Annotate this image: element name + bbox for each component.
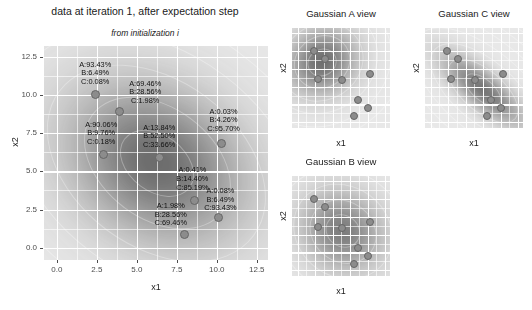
probability-line: C:1.98%: [110, 97, 180, 106]
scatter-point[interactable]: [314, 75, 322, 83]
main-yaxis-title: x2: [10, 112, 20, 172]
facet-a-xaxis-title: x1: [292, 138, 390, 148]
scatter-point[interactable]: [321, 203, 329, 211]
y-tick-label: 0.0: [4, 243, 37, 252]
scatter-point[interactable]: [354, 244, 362, 252]
facet-c-yaxis-title: x2: [411, 48, 421, 88]
y-tick-label: 2.5: [4, 205, 37, 214]
x-tick-label: 12.5: [239, 265, 275, 274]
x-tick-mark: [97, 260, 98, 263]
figure-root: data at iteration 1, after expectation s…: [0, 0, 532, 310]
y-tick-mark: [40, 248, 43, 249]
scatter-point[interactable]: [366, 218, 374, 226]
facet-b-yaxis-title: x2: [278, 196, 288, 236]
scatter-point[interactable]: [99, 150, 108, 159]
page-subtitle: from initialization i: [10, 28, 280, 38]
y-tick-mark: [40, 95, 43, 96]
point-probability-label: A:13.84%B:52.50%C:33.66%: [124, 124, 194, 150]
scatter-point[interactable]: [350, 112, 358, 120]
y-tick-label: 12.5: [4, 52, 37, 61]
scatter-point[interactable]: [115, 107, 124, 116]
scatter-point[interactable]: [499, 70, 507, 78]
facet-b-xaxis-title: x1: [292, 286, 390, 296]
facet-b-panel[interactable]: [292, 176, 390, 276]
y-tick-mark: [40, 133, 43, 134]
x-tick-label: 2.5: [79, 265, 115, 274]
scatter-point[interactable]: [483, 112, 491, 120]
page-title: data at iteration 1, after expectation s…: [10, 5, 280, 17]
point-probability-label: A:69.46%B:28.56%C:1.98%: [110, 80, 180, 106]
facet-a-panel[interactable]: [292, 28, 390, 128]
x-tick-label: 10.0: [199, 265, 235, 274]
scatter-point[interactable]: [487, 96, 495, 104]
scatter-point[interactable]: [314, 223, 322, 231]
facet-a-title: Gaussian A view: [285, 8, 397, 19]
main-xaxis-title: x1: [44, 282, 268, 292]
scatter-point[interactable]: [350, 260, 358, 268]
scatter-point[interactable]: [155, 153, 164, 162]
x-tick-mark: [57, 260, 58, 263]
scatter-point[interactable]: [354, 96, 362, 104]
facet-c-title: Gaussian C view: [418, 8, 530, 19]
x-tick-mark: [177, 260, 178, 263]
point-probability-label: A:0.03%B:4.26%C:95.70%: [189, 108, 259, 134]
scatter-point[interactable]: [214, 213, 223, 222]
probability-line: C:33.66%: [124, 141, 194, 150]
x-tick-mark: [137, 260, 138, 263]
x-tick-mark: [257, 260, 258, 263]
y-tick-label: 5.0: [4, 166, 37, 175]
facet-b-title: Gaussian B view: [285, 156, 397, 167]
y-tick-label: 7.5: [4, 128, 37, 137]
facet-a-yaxis-title: x2: [278, 48, 288, 88]
probability-line: C:69.46%: [136, 219, 206, 228]
x-tick-label: 5.0: [119, 265, 155, 274]
scatter-point[interactable]: [447, 75, 455, 83]
scatter-point[interactable]: [366, 70, 374, 78]
point-probability-label: A:1.98%B:28.56%C:69.46%: [136, 202, 206, 228]
facet-c-panel[interactable]: [425, 28, 523, 128]
x-tick-mark: [217, 260, 218, 263]
facet-c-xaxis-title: x1: [425, 138, 523, 148]
x-tick-label: 7.5: [159, 265, 195, 274]
x-tick-label: 0.0: [39, 265, 75, 274]
scatter-point[interactable]: [180, 230, 189, 239]
scatter-point[interactable]: [454, 55, 462, 63]
y-tick-mark: [40, 171, 43, 172]
y-tick-mark: [40, 210, 43, 211]
scatter-point[interactable]: [321, 55, 329, 63]
probability-line: C:95.70%: [189, 125, 259, 134]
y-tick-label: 10.0: [4, 90, 37, 99]
y-tick-mark: [40, 57, 43, 58]
